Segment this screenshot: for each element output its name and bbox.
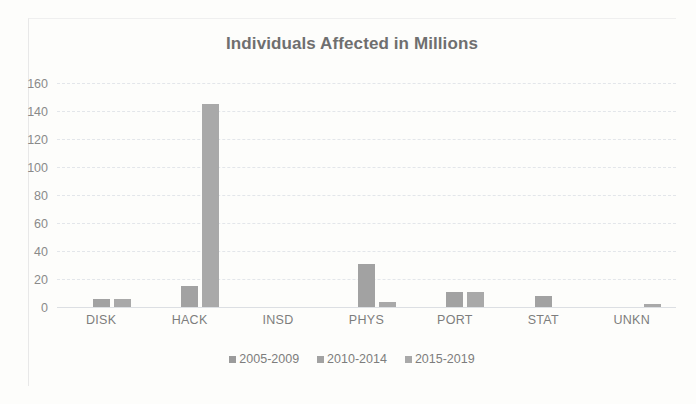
legend-swatch-icon bbox=[317, 356, 324, 363]
bar-group bbox=[57, 83, 145, 307]
x-axis-label-phys: PHYS bbox=[322, 313, 410, 327]
y-axis-tick-label: 160 bbox=[27, 77, 48, 91]
legend-item[interactable]: 2005-2009 bbox=[229, 352, 299, 366]
bar bbox=[93, 299, 110, 307]
bar bbox=[114, 299, 131, 307]
y-axis-tick-label: 0 bbox=[41, 301, 48, 315]
chart-page: Individuals Affected in Millions 1601401… bbox=[0, 0, 696, 404]
y-axis-tick-label: 40 bbox=[34, 245, 48, 259]
gridline: 0 bbox=[57, 307, 676, 308]
x-axis-label-insd: INSD bbox=[234, 313, 322, 327]
legend-swatch-icon bbox=[229, 356, 236, 363]
legend-swatch-icon bbox=[405, 356, 412, 363]
legend-item[interactable]: 2010-2014 bbox=[317, 352, 387, 366]
x-axis-label-disk: DISK bbox=[57, 313, 145, 327]
y-axis-tick-label: 120 bbox=[27, 133, 48, 147]
plot-area: 160140120100806040200 bbox=[57, 83, 676, 307]
bar bbox=[644, 304, 661, 308]
legend-label: 2005-2009 bbox=[239, 352, 299, 366]
x-axis-label-port: PORT bbox=[411, 313, 499, 327]
y-axis-tick-label: 140 bbox=[27, 105, 48, 119]
bar-group bbox=[411, 83, 499, 307]
chart-legend: 2005-20092010-20142015-2019 bbox=[28, 352, 676, 366]
bar-group bbox=[322, 83, 410, 307]
x-axis-label-stat: STAT bbox=[499, 313, 587, 327]
bar-group bbox=[145, 83, 233, 307]
legend-item[interactable]: 2015-2019 bbox=[405, 352, 475, 366]
bar bbox=[446, 292, 463, 307]
bar bbox=[467, 292, 484, 307]
chart-title: Individuals Affected in Millions bbox=[28, 34, 676, 54]
bar bbox=[358, 264, 375, 307]
bar-group bbox=[234, 83, 322, 307]
bar bbox=[379, 302, 396, 307]
y-axis-tick-label: 80 bbox=[34, 189, 48, 203]
y-axis-tick-label: 60 bbox=[34, 217, 48, 231]
bar-group bbox=[499, 83, 587, 307]
y-axis-tick-label: 20 bbox=[34, 273, 48, 287]
bar-groups bbox=[57, 83, 676, 307]
legend-label: 2015-2019 bbox=[415, 352, 475, 366]
bar bbox=[535, 296, 552, 307]
bar bbox=[181, 286, 198, 307]
x-axis-label-hack: HACK bbox=[145, 313, 233, 327]
bar-group bbox=[588, 83, 676, 307]
y-axis-tick-label: 100 bbox=[27, 161, 48, 175]
x-axis-labels: DISKHACKINSDPHYSPORTSTATUNKN bbox=[57, 313, 676, 327]
x-axis-label-unkn: UNKN bbox=[588, 313, 676, 327]
bar bbox=[202, 104, 219, 307]
legend-label: 2010-2014 bbox=[327, 352, 387, 366]
